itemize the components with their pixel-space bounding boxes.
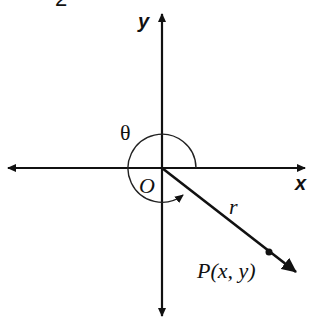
terminal-ray	[162, 168, 296, 272]
figure-number: 2	[55, 0, 67, 12]
ray-length-label: r	[229, 194, 238, 220]
point-p	[266, 249, 273, 256]
angle-diagram	[0, 0, 311, 319]
y-axis-label: y	[138, 10, 149, 33]
origin-label: O	[139, 173, 155, 199]
point-label: P(x, y)	[197, 258, 256, 284]
angle-label: θ	[120, 120, 131, 146]
x-axis-label: x	[295, 172, 306, 195]
